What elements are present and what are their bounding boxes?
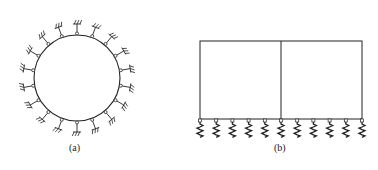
hatch-mark: [93, 23, 96, 26]
hatch-mark: [61, 22, 62, 26]
support-node: [37, 54, 40, 57]
hatch-mark: [114, 118, 115, 122]
hatch-mark: [98, 128, 99, 132]
support-node: [60, 35, 63, 38]
radial-support: [114, 99, 128, 111]
hatch-mark: [41, 32, 42, 36]
spring-node: [199, 119, 202, 122]
support-node: [47, 111, 50, 114]
figure-a-ring-on-springs: [19, 20, 135, 136]
spring-node: [361, 119, 364, 122]
spring-node: [312, 119, 315, 122]
hatch-mark: [125, 103, 127, 107]
hatch-mark: [53, 128, 56, 131]
spring-coil: [262, 122, 268, 137]
hatch-mark: [131, 85, 135, 88]
support-link: [42, 37, 47, 43]
hatch-mark: [77, 20, 79, 24]
spring-coil: [246, 122, 252, 137]
hatch-mark: [80, 20, 82, 24]
radial-support: [73, 20, 82, 35]
spring-support: [310, 119, 316, 137]
support-node: [114, 54, 117, 57]
caption-a: (a): [69, 142, 80, 153]
spring-support: [197, 119, 203, 137]
support-node: [114, 99, 117, 102]
spring-coil: [327, 122, 333, 137]
spring-support: [359, 119, 365, 137]
hatch-mark: [55, 129, 58, 132]
hatch-mark: [29, 45, 31, 49]
support-link: [107, 37, 112, 43]
support-node: [119, 84, 122, 87]
spring-coil: [229, 122, 235, 137]
hatch-mark: [56, 24, 57, 28]
hatch-mark: [21, 63, 25, 66]
spring-node: [296, 119, 299, 122]
radial-support: [26, 45, 40, 57]
hatch-mark: [26, 50, 28, 54]
hatch-mark: [20, 69, 24, 72]
hatch-mark: [130, 90, 134, 93]
diagram-canvas: [0, 0, 378, 170]
support-node: [119, 69, 122, 72]
spring-node: [231, 119, 234, 122]
hatch-mark: [74, 20, 76, 24]
support-link: [59, 27, 62, 35]
support-node: [91, 35, 94, 38]
hatch-mark: [72, 132, 74, 136]
support-node: [91, 118, 94, 121]
radial-support: [119, 83, 134, 92]
radial-support: [20, 63, 35, 72]
hatch-mark: [75, 132, 77, 136]
spring-coil: [310, 122, 316, 137]
spring-coil: [213, 122, 219, 137]
ring: [34, 35, 120, 121]
radial-support: [91, 23, 102, 37]
spring-support: [262, 119, 268, 137]
spring-node: [280, 119, 283, 122]
hatch-mark: [78, 132, 80, 136]
spring-node: [215, 119, 218, 122]
support-link: [24, 86, 32, 87]
support-link: [93, 27, 96, 35]
spring-coil: [359, 122, 365, 137]
radial-support: [53, 118, 64, 132]
hatch-mark: [38, 119, 42, 121]
support-node: [37, 99, 40, 102]
hatch-mark: [59, 23, 60, 27]
radial-support: [24, 99, 40, 109]
hatch-mark: [110, 33, 114, 35]
support-link: [107, 113, 112, 119]
support-link: [30, 51, 37, 55]
hatch-mark: [58, 130, 61, 133]
hatch-mark: [110, 121, 111, 125]
radial-support: [39, 30, 50, 45]
radial-support: [104, 111, 115, 126]
support-node: [47, 42, 50, 45]
spring-support: [246, 119, 252, 137]
hatch-mark: [112, 119, 113, 123]
radial-support: [104, 33, 118, 45]
hatch-mark: [114, 37, 118, 39]
hatch-mark: [112, 35, 116, 37]
radial-support: [72, 121, 81, 136]
radial-support: [119, 65, 135, 73]
radial-support: [19, 83, 35, 91]
caption-b: (b): [274, 142, 286, 153]
hatch-mark: [95, 129, 96, 133]
hatch-mark: [39, 34, 40, 38]
spring-node: [328, 119, 331, 122]
hatch-mark: [20, 66, 24, 69]
spring-node: [247, 119, 250, 122]
radial-support: [55, 22, 64, 38]
support-node: [76, 32, 79, 35]
spring-support: [229, 119, 235, 137]
hatch-mark: [95, 24, 98, 27]
spring-support: [278, 119, 284, 137]
support-link: [30, 101, 37, 105]
spring-coil: [343, 122, 349, 137]
spring-node: [263, 119, 266, 122]
support-link: [122, 69, 130, 70]
radial-support: [91, 118, 100, 134]
